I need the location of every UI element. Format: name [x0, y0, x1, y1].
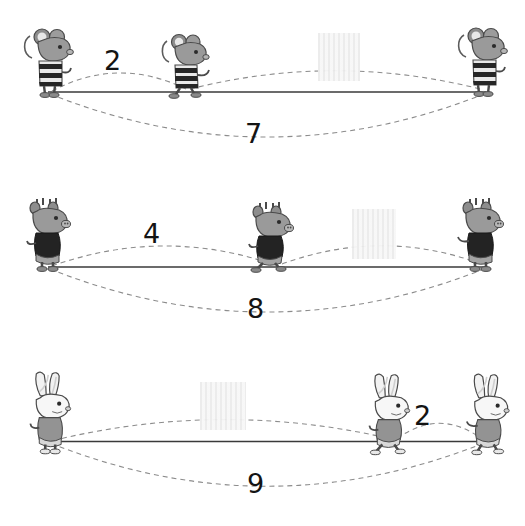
hop-label-row3-above: 2	[414, 402, 431, 429]
hop-label-row2-above: 4	[143, 220, 160, 247]
hop-arc-above-left	[52, 246, 272, 266]
number-line-row-rabbit: 2 9	[0, 350, 525, 525]
hop-arc-below-total	[50, 269, 484, 312]
character-pig-start	[27, 198, 71, 271]
hidden-value-box-1	[318, 33, 360, 81]
character-rabbit-end	[467, 374, 509, 455]
hop-label-row1-below: 7	[245, 120, 262, 147]
number-line-row-pig: 4 8	[0, 175, 525, 350]
character-rabbit-middle	[369, 374, 409, 455]
worksheet-page: 2 7	[0, 0, 525, 526]
hop-arc-below-total	[51, 443, 483, 486]
character-mouse-end	[459, 28, 508, 96]
row-mouse-graphics	[0, 0, 525, 175]
hidden-value-box-3	[200, 382, 246, 430]
number-line-row-mouse: 2 7	[0, 0, 525, 175]
character-pig-middle	[249, 202, 294, 272]
hop-arc-below-total	[50, 94, 484, 137]
hidden-value-box-2	[352, 209, 396, 259]
character-mouse-start	[25, 29, 74, 97]
hop-label-row3-below: 9	[247, 470, 264, 497]
character-pig-end	[458, 198, 504, 271]
hop-label-row2-below: 8	[247, 295, 264, 322]
hop-label-row1-above: 2	[104, 47, 121, 74]
